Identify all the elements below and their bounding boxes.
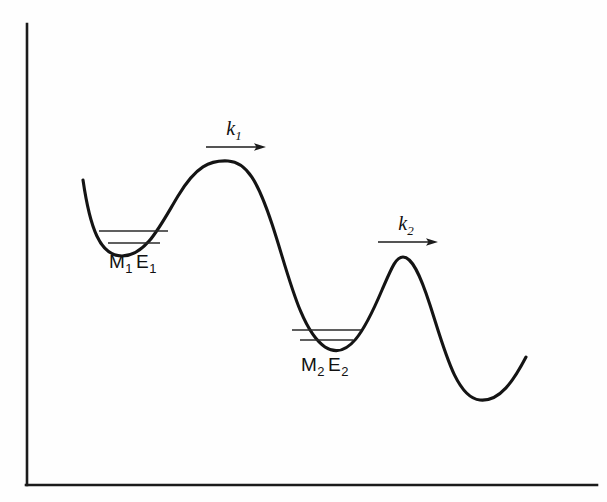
well-2-species-subscript: 2 bbox=[317, 364, 325, 379]
well-2-energy-subscript: 2 bbox=[341, 364, 349, 379]
k1-subscript: 1 bbox=[235, 128, 242, 143]
energy-profile-figure: M1E1 M2E2 k1 k2 bbox=[0, 0, 607, 502]
k2-subscript: 2 bbox=[407, 223, 414, 238]
well-1-species-subscript: 1 bbox=[125, 261, 133, 276]
rate-constant-k1-label: k1 bbox=[226, 117, 241, 143]
well-1-species-symbol: M bbox=[109, 251, 125, 272]
well-2-species-symbol: M bbox=[301, 354, 317, 375]
well-1-energy-symbol: E bbox=[136, 251, 149, 272]
rate-constant-k2-label: k2 bbox=[398, 212, 414, 238]
well-2-energy-symbol: E bbox=[328, 354, 341, 375]
reaction-energy-diagram: M1E1 M2E2 k1 k2 bbox=[0, 0, 607, 502]
well-2-label: M2E2 bbox=[301, 354, 349, 379]
rate-arrow-k1 bbox=[206, 143, 266, 151]
well-1-energy-subscript: 1 bbox=[149, 261, 157, 276]
rate-arrow-k2 bbox=[378, 238, 438, 246]
